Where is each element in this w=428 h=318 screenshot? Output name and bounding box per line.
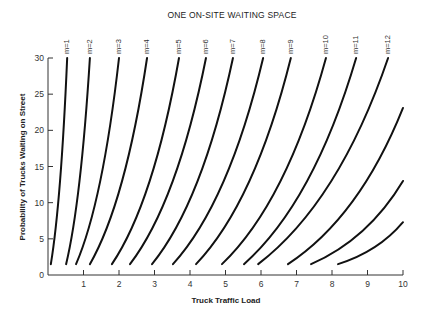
x-tick-label: 10 <box>398 279 408 289</box>
curve-label: m=5 <box>174 39 183 54</box>
curve-label: m=7 <box>228 39 237 54</box>
curve-label: m=2 <box>85 39 94 54</box>
x-tick-label: 1 <box>81 279 86 289</box>
x-tick-label: 4 <box>188 279 193 289</box>
y-tick-label: 25 <box>35 89 45 99</box>
curve-label: m=6 <box>201 39 210 54</box>
curve-label: m=11 <box>351 36 360 54</box>
curve-m11 <box>244 58 356 264</box>
x-tick-label: 3 <box>152 279 157 289</box>
chart-plot: 05101520253012345678910m=1m=2m=3m=4m=5m=… <box>0 0 428 318</box>
curve-label: m=8 <box>258 39 267 54</box>
y-tick-label: 15 <box>35 162 45 172</box>
curve-m12 <box>258 58 388 264</box>
x-tick-label: 8 <box>330 279 335 289</box>
curve-m4 <box>90 58 147 264</box>
y-tick-label: 5 <box>39 234 44 244</box>
curve-label: m=12 <box>383 35 392 54</box>
curve-label: m=3 <box>114 39 123 54</box>
curve-m9 <box>196 58 291 264</box>
y-axis-label: Probability of Trucks Waiting on Street <box>18 94 27 241</box>
curve-m1 <box>51 58 67 264</box>
curve-m5 <box>112 58 179 264</box>
curve-label: m=4 <box>142 39 151 54</box>
y-tick-label: 0 <box>39 270 44 280</box>
y-tick-label: 10 <box>35 198 45 208</box>
curve-label: m=1 <box>62 39 71 54</box>
x-tick-label: 5 <box>223 279 228 289</box>
x-tick-label: 9 <box>365 279 370 289</box>
curve-label: m=10 <box>321 35 330 54</box>
x-tick-label: 2 <box>117 279 122 289</box>
curve-label: m=9 <box>286 39 295 54</box>
y-tick-label: 30 <box>35 53 45 63</box>
x-axis-label: Truck Traffic Load <box>192 296 261 305</box>
x-tick-label: 6 <box>259 279 264 289</box>
x-tick-label: 7 <box>294 279 299 289</box>
y-tick-label: 20 <box>35 125 45 135</box>
